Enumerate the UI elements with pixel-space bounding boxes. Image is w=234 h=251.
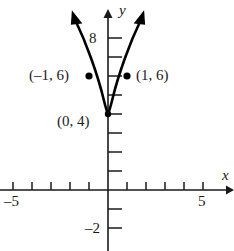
x-tick-label-5: 5 xyxy=(198,194,206,209)
point-label-1-6: (1, 6) xyxy=(136,68,169,83)
parabola-graph-figure: y x 8 –2 –5 5 (–1, 6) (1, 6) (0, 4) xyxy=(0,0,234,251)
x-axis-label: x xyxy=(222,168,229,183)
y-tick-label-neg2: –2 xyxy=(85,221,100,236)
y-axis xyxy=(104,9,113,251)
y-tick-label-8: 8 xyxy=(89,31,97,46)
x-axis-arrowhead xyxy=(226,186,234,195)
parabola-left-arrowhead xyxy=(69,9,82,25)
y-axis-arrowhead xyxy=(104,9,113,18)
y-axis-ticks xyxy=(108,38,122,228)
point-label-0-4: (0, 4) xyxy=(57,114,90,129)
point-label-neg1-6: (–1, 6) xyxy=(29,68,69,83)
y-axis-label: y xyxy=(119,3,126,18)
coordinate-plane-svg xyxy=(0,0,234,251)
point-marker-neg1-6 xyxy=(85,72,92,79)
parabola-right-arrowhead xyxy=(134,9,147,25)
point-marker-1-6 xyxy=(123,72,130,79)
point-marker-0-4 xyxy=(105,111,111,117)
x-tick-label-neg5: –5 xyxy=(4,194,19,209)
